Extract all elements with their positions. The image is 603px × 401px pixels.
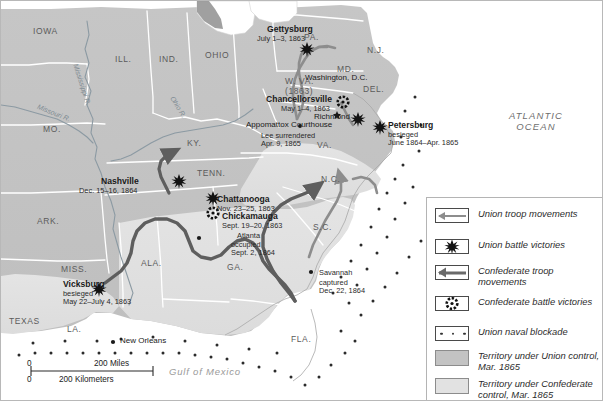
legend-item-confederate-battle-victories: Confederate battle victories [435,296,592,311]
legend-label-union-battle-victories: Union battle victories [478,239,565,250]
legend-label-union-territory: Territory under Union control, Mar. 1865 [478,350,602,373]
legend-label-union-troop-movements: Union troop movements [478,208,578,219]
legend-item-confederate-troop-movements: Confederate troop movements [435,265,602,288]
scale-bar [31,366,153,376]
city-dot-appomattox [298,124,302,128]
legend-item-union-troop-movements: Union troop movements [435,208,578,223]
legend-item-union-naval-blockade: Union naval blockade [435,326,568,341]
union-arrow-icon [435,208,469,223]
confederate-territory-swatch [435,378,469,394]
civil-war-map: IOWA ILL. IND. OHIO PA. N.J. MD. DEL. MO… [0,0,603,401]
legend-label-union-naval-blockade: Union naval blockade [478,326,568,337]
legend-label-confederate-troop-movements: Confederate troop movements [478,265,602,288]
city-dot-new-orleans [111,340,115,344]
legend-label-confederate-territory: Territory under Confederate control, Mar… [478,378,602,401]
confederate-arrow-icon [435,265,469,280]
legend-item-union-battle-victories: Union battle victories [435,239,565,254]
legend-item-union-territory: Territory under Union control, Mar. 1865 [435,350,602,373]
naval-blockade-icon [435,326,469,341]
city-dot-atlanta [197,236,201,240]
city-dot-savannah [309,270,313,274]
map-legend: Union troop movements Union battle victo… [426,197,602,400]
legend-label-confederate-battle-victories: Confederate battle victories [478,296,592,307]
confederate-victory-icon [435,296,469,311]
union-victory-icon [435,239,469,254]
union-territory-swatch [435,350,469,366]
legend-item-confederate-territory: Territory under Confederate control, Mar… [435,378,602,401]
